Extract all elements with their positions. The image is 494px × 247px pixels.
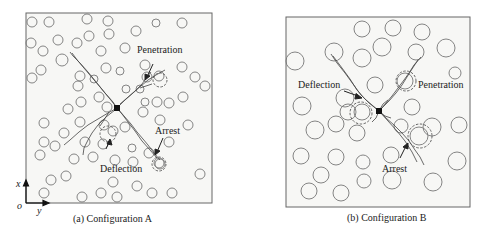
crack-tip-b: [376, 108, 382, 114]
caption-configuration-b: (b) Configuration B: [347, 212, 426, 223]
diagram-panel-b: Deflection Penetration Arrest (b) Config…: [0, 0, 494, 247]
penetration-label-b: Penetration: [418, 79, 464, 90]
configuration-b-figure: Deflection Penetration Arrest: [0, 0, 494, 247]
deflection-label-b: Deflection: [298, 79, 340, 90]
arrest-label-b: Arrest: [382, 163, 407, 174]
